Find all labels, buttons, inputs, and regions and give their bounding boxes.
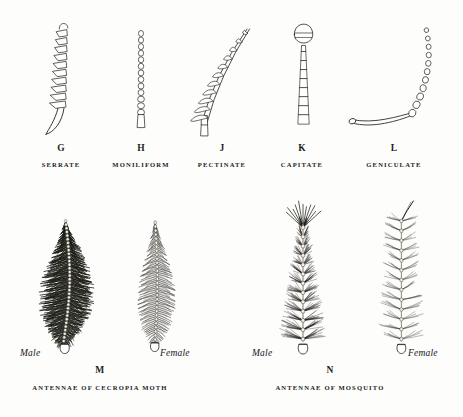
figure-letter: H: [102, 144, 180, 154]
antenna-figure-l: LGENICULATE: [340, 18, 448, 168]
female-mosquito-antenna-icon: [360, 198, 450, 362]
figure-letter: L: [340, 144, 448, 154]
figure-caption: MONILIFORM: [102, 162, 180, 169]
antenna-figure-k: KCAPITATE: [264, 18, 340, 168]
capitate-antenna-icon: [264, 18, 340, 140]
antennae-plate: GSERRATEHMONILIFORMJPECTINATEKCAPITATELG…: [0, 0, 463, 417]
female-cecropia-antenna-icon: [112, 212, 192, 362]
group-caption-m: ANTENNAE OF CECROPIA MOTH: [32, 385, 167, 392]
geniculate-antenna-icon: [340, 18, 448, 140]
figure-letter: J: [178, 144, 266, 154]
specimen-female-n: [360, 198, 450, 362]
specimen-male-n: [248, 198, 358, 362]
male-mosquito-antenna-icon: [248, 198, 358, 362]
male-cecropia-antenna-icon: [20, 212, 104, 362]
figure-caption: PECTINATE: [178, 162, 266, 169]
moniliform-antenna-icon: [102, 18, 180, 140]
figure-letter: G: [18, 144, 104, 154]
figure-caption: CAPITATE: [264, 162, 340, 169]
group-letter-m: M: [95, 366, 104, 376]
figure-letter: K: [264, 144, 340, 154]
figure-caption: GENICULATE: [340, 162, 448, 169]
sex-label-female: Female: [160, 348, 190, 358]
antenna-figure-h: HMONILIFORM: [102, 18, 180, 168]
serrate-antenna-icon: [18, 18, 104, 140]
sex-label-male: Male: [20, 348, 40, 358]
group-caption-n: ANTENNAE OF MOSQUITO: [275, 385, 384, 392]
pectinate-antenna-icon: [178, 18, 266, 140]
antenna-figure-g: GSERRATE: [18, 18, 104, 168]
sex-label-female: Female: [408, 348, 438, 358]
figure-caption: SERRATE: [18, 162, 104, 169]
group-letter-n: N: [326, 366, 333, 376]
antenna-figure-j: JPECTINATE: [178, 18, 266, 168]
sex-label-male: Male: [252, 348, 272, 358]
specimen-male-m: [20, 212, 104, 362]
specimen-female-m: [112, 212, 192, 362]
